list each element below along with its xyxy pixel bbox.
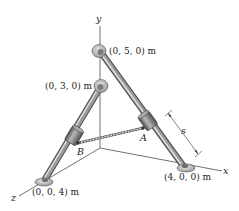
z-axis-label: z [10, 192, 17, 203]
point-label-030: (0, 3, 0) m [45, 81, 93, 91]
support-plate-004 [35, 178, 53, 186]
dimension-s-label: s [181, 125, 186, 136]
statics-diagram: y x z [0, 0, 239, 211]
rod-050-to-400 [99, 51, 184, 167]
support-plate-030 [94, 80, 108, 93]
point-label-050: (0, 5, 0) m [109, 46, 157, 56]
collar-b-pin [76, 141, 80, 145]
cable-ab [78, 128, 143, 143]
support-plate-050 [92, 45, 106, 58]
x-axis [100, 148, 222, 171]
y-axis-label: y [95, 13, 102, 24]
x-axis-label: x [223, 165, 229, 176]
point-label-400: (4, 0, 0) m [164, 172, 212, 182]
support-plate-400 [177, 164, 195, 172]
collar-a-pin [141, 126, 145, 130]
collar-b-label: B [76, 146, 84, 157]
point-label-004: (0, 0, 4) m [32, 187, 80, 197]
collar-a-label: A [139, 132, 147, 143]
